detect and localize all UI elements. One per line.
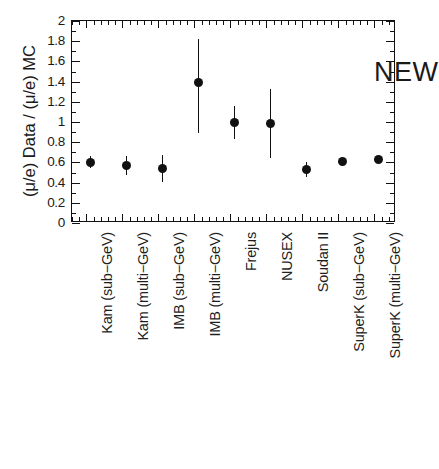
x-tick	[295, 217, 296, 221]
y-tick	[72, 132, 76, 133]
x-tick	[86, 214, 87, 221]
x-axis-category-labels: Kam (sub−GeV)Kam (multi−GeV)IMB (sub−GeV…	[0, 232, 413, 469]
x-category-label: SuperK (sub−GeV)	[349, 232, 369, 452]
x-tick-top	[245, 21, 246, 25]
x-tick	[137, 217, 138, 221]
y-tick	[72, 173, 76, 174]
x-tick-top	[367, 21, 368, 25]
y-tick	[72, 102, 80, 103]
y-axis-title: (μ/e) Data / (μ/e) MC	[16, 18, 42, 224]
x-tick-top	[266, 21, 267, 28]
data-point	[86, 158, 95, 167]
y-tick	[72, 162, 80, 163]
x-tick-top	[295, 21, 296, 25]
x-tick-top	[331, 21, 332, 25]
y-tick	[72, 193, 76, 194]
x-tick	[331, 217, 332, 221]
x-tick-top	[230, 21, 231, 28]
x-tick	[238, 217, 239, 221]
x-tick-top	[324, 21, 325, 25]
x-tick	[389, 217, 390, 221]
x-tick	[180, 217, 181, 221]
x-tick-top	[187, 21, 188, 25]
x-tick-top	[115, 21, 116, 25]
x-tick-top	[223, 21, 224, 25]
x-tick-top	[108, 21, 109, 25]
x-tick	[209, 217, 210, 221]
x-tick-top	[202, 21, 203, 25]
x-tick-top	[79, 21, 80, 25]
x-tick	[274, 217, 275, 221]
x-tick	[281, 217, 282, 221]
x-category-label: SuperK (multi−GeV)	[385, 232, 405, 452]
x-tick	[302, 214, 303, 221]
y-tick-right	[390, 152, 394, 153]
x-tick-top	[72, 21, 73, 25]
y-tick	[72, 112, 76, 113]
y-tick-right	[390, 213, 394, 214]
x-tick-top	[122, 21, 123, 28]
x-tick	[166, 217, 167, 221]
x-tick-top	[252, 21, 253, 25]
x-tick-top	[338, 21, 339, 28]
y-tick-right	[386, 102, 394, 103]
data-point	[374, 155, 383, 164]
y-tick	[72, 72, 76, 73]
x-tick-top	[158, 21, 159, 28]
x-tick-top	[346, 21, 347, 25]
x-tick	[230, 214, 231, 221]
x-tick	[259, 217, 260, 221]
y-tick-right	[386, 21, 394, 22]
x-category-label: Kam (multi−GeV)	[133, 232, 153, 452]
y-tick-right	[386, 162, 394, 163]
y-tick-right	[390, 112, 394, 113]
data-point	[230, 118, 239, 127]
x-tick	[346, 217, 347, 221]
x-tick	[310, 217, 311, 221]
data-point	[266, 119, 275, 128]
y-tick	[72, 213, 76, 214]
y-tick-right	[390, 173, 394, 174]
x-tick-top	[130, 21, 131, 25]
y-tick-right	[386, 41, 394, 42]
data-point	[302, 165, 311, 174]
x-tick-top	[259, 21, 260, 25]
y-tick-right	[386, 122, 394, 123]
x-tick	[317, 217, 318, 221]
y-tick	[72, 92, 76, 93]
x-tick-top	[144, 21, 145, 25]
x-tick	[194, 214, 195, 221]
x-tick-top	[194, 21, 195, 28]
x-category-label: Soudan II	[313, 232, 333, 452]
plot-area: NEW	[71, 20, 395, 222]
y-tick-right	[390, 31, 394, 32]
x-tick-top	[310, 21, 311, 25]
x-tick	[374, 214, 375, 221]
y-tick-right	[390, 92, 394, 93]
x-tick	[288, 217, 289, 221]
x-tick	[252, 217, 253, 221]
y-tick-right	[386, 183, 394, 184]
x-tick	[151, 217, 152, 221]
y-tick-right	[386, 223, 394, 224]
x-tick-top	[389, 21, 390, 25]
x-tick	[79, 217, 80, 221]
x-category-label: Frejus	[241, 232, 261, 452]
x-tick	[72, 217, 73, 221]
x-tick	[173, 217, 174, 221]
x-tick	[115, 217, 116, 221]
x-tick-top	[166, 21, 167, 25]
data-point	[338, 157, 347, 166]
x-tick-top	[137, 21, 138, 25]
y-tick-right	[386, 142, 394, 143]
x-tick-top	[151, 21, 152, 25]
y-tick-right	[390, 193, 394, 194]
y-tick-right	[390, 132, 394, 133]
x-tick-top	[86, 21, 87, 28]
y-axis-title-text: (μ/e) Data / (μ/e) MC	[20, 45, 39, 197]
x-category-label: NUSEX	[277, 232, 297, 452]
x-tick	[122, 214, 123, 221]
x-tick	[130, 217, 131, 221]
x-tick	[382, 217, 383, 221]
